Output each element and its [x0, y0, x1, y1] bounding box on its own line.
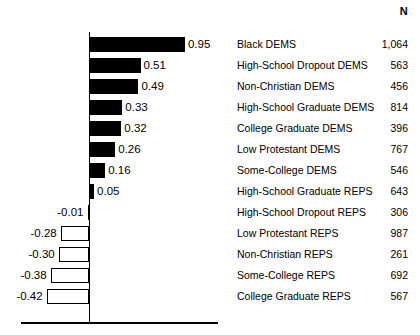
bar-value-label: 0.49	[141, 78, 163, 94]
table-row: 0.05High-School Graduate REPS643	[0, 181, 420, 202]
bar	[89, 79, 138, 94]
category-label: High-School Dropout REPS	[237, 204, 366, 220]
bar-chart: N 0.95Black DEMS1,0640.51High-School Dro…	[0, 0, 420, 335]
category-label: College Graduate DEMS	[237, 120, 353, 136]
bar-value-label: -0.28	[31, 225, 57, 241]
table-row: 0.95Black DEMS1,064	[0, 34, 420, 55]
n-column-header: N	[400, 5, 408, 17]
table-row: -0.01High-School Dropout REPS306	[0, 202, 420, 223]
n-value: 563	[390, 57, 408, 73]
table-row: 0.26Low Protestant DEMS767	[0, 139, 420, 160]
table-row: 0.49Non-Christian DEMS456	[0, 76, 420, 97]
category-label: Non-Christian REPS	[237, 246, 333, 262]
bar-value-label: 0.33	[125, 99, 147, 115]
category-label: Some-College DEMS	[237, 162, 337, 178]
table-row: -0.42College Graduate REPS567	[0, 286, 420, 307]
bar	[61, 226, 89, 241]
bar	[89, 142, 115, 157]
table-row: 0.33High-School Graduate DEMS814	[0, 97, 420, 118]
bar-value-label: 0.16	[108, 162, 130, 178]
n-value: 814	[390, 99, 408, 115]
category-label: Low Protestant DEMS	[237, 141, 340, 157]
category-label: Black DEMS	[237, 36, 296, 52]
bar	[47, 289, 89, 304]
bar	[89, 58, 141, 73]
category-label: Low Protestant REPS	[237, 225, 339, 241]
bar	[51, 268, 89, 283]
bar-value-label: 0.32	[124, 120, 146, 136]
bar-value-label: 0.26	[118, 141, 140, 157]
bar-value-label: 0.95	[188, 36, 210, 52]
bar-value-label: 0.05	[97, 183, 119, 199]
n-value: 396	[390, 120, 408, 136]
n-value: 987	[390, 225, 408, 241]
n-value: 261	[390, 246, 408, 262]
n-value: 1,064	[382, 36, 408, 52]
table-row: 0.16Some-College DEMS546	[0, 160, 420, 181]
bar	[88, 205, 90, 220]
table-row: -0.30Non-Christian REPS261	[0, 244, 420, 265]
bar	[89, 163, 105, 178]
category-label: High-School Graduate DEMS	[237, 99, 374, 115]
bar-value-label: -0.01	[57, 204, 83, 220]
bar-value-label: -0.42	[16, 288, 42, 304]
category-label: Non-Christian DEMS	[237, 78, 334, 94]
bar	[59, 247, 89, 262]
bar	[89, 121, 121, 136]
table-row: -0.28Low Protestant REPS987	[0, 223, 420, 244]
table-row: 0.32College Graduate DEMS396	[0, 118, 420, 139]
bar	[89, 37, 185, 52]
bar-value-label: -0.30	[28, 246, 54, 262]
category-label: Some-College REPS	[237, 267, 335, 283]
table-row: 0.51High-School Dropout DEMS563	[0, 55, 420, 76]
n-value: 767	[390, 141, 408, 157]
category-label: High-School Graduate REPS	[237, 183, 372, 199]
n-value: 546	[390, 162, 408, 178]
n-value: 456	[390, 78, 408, 94]
bar-value-label: 0.51	[144, 57, 166, 73]
n-value: 567	[390, 288, 408, 304]
bar	[89, 100, 122, 115]
bar	[89, 184, 94, 199]
n-value: 692	[390, 267, 408, 283]
category-label: High-School Dropout DEMS	[237, 57, 368, 73]
bar-value-label: -0.38	[20, 267, 46, 283]
table-row: -0.38Some-College REPS692	[0, 265, 420, 286]
n-value: 643	[390, 183, 408, 199]
baseline-axis	[21, 322, 218, 324]
category-label: College Graduate REPS	[237, 288, 351, 304]
n-value: 306	[390, 204, 408, 220]
